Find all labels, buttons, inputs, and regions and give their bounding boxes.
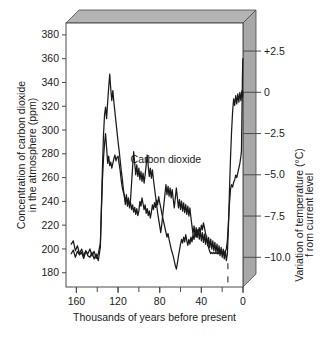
x-axis-tick-label: 120 [109, 295, 127, 307]
x-axis-tick-label: 0 [240, 295, 246, 307]
y-axis-right-tick-label: −7.5 [264, 210, 285, 222]
x-axis-tick-label: 80 [154, 295, 166, 307]
y-axis-left-tick-label: 380 [41, 28, 59, 40]
y-axis-right-tick-label: −2.5 [264, 127, 285, 139]
annotation-carbon-dioxide: Carbon dioxide [131, 153, 202, 165]
y-axis-left-tick-label: 260 [41, 171, 59, 183]
y-axis-right-tick-label: 0 [264, 86, 270, 98]
y-axis-left-tick-label: 320 [41, 100, 59, 112]
y-axis-left-tick-label: 340 [41, 76, 59, 88]
chart-figure: 180200220240260280300320340360380+2.50−2… [0, 0, 327, 340]
y-axis-left-tick-label: 300 [41, 124, 59, 136]
x-axis-tick-label: 160 [68, 295, 86, 307]
y-axis-left-tick-label: 180 [41, 266, 59, 278]
y-axis-left-tick-label: 240 [41, 195, 59, 207]
y-axis-right-tick-label: −5.0 [264, 168, 285, 180]
x-axis-title: Thousands of years before present [73, 311, 236, 323]
x-axis-tick-label: 40 [196, 295, 208, 307]
y-axis-left-tick-label: 280 [41, 147, 59, 159]
y-axis-left-tick-label: 360 [41, 52, 59, 64]
y-axis-right-tick-label: −10.0 [264, 251, 291, 263]
y-axis-right-title-line2: f rom current level [303, 173, 315, 257]
y-axis-right-tick-label: +2.5 [264, 45, 285, 57]
slab-top-face [66, 10, 256, 23]
y-axis-left-tick-label: 220 [41, 219, 59, 231]
y-axis-left-tick-label: 200 [41, 243, 59, 255]
co2-temperature-chart: 180200220240260280300320340360380+2.50−2… [0, 0, 327, 340]
y-axis-left-title-line2: in the atmosphere (ppm) [26, 98, 38, 212]
